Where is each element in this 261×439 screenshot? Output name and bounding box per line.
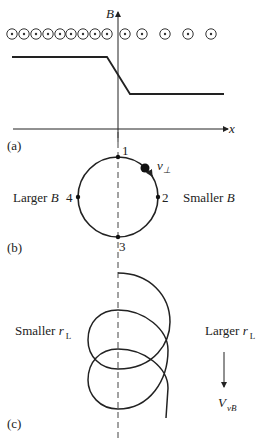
- particle: [141, 164, 150, 173]
- point-4-label: 4: [66, 190, 73, 205]
- field-dot-icon: [164, 33, 166, 35]
- field-dot-icon: [106, 33, 108, 35]
- field-dot-icon: [47, 33, 49, 35]
- drift-velocity-label: VvB: [218, 395, 237, 413]
- panel-b: 1 2 3 4 v⊥ Larger B Smaller B (b): [7, 143, 235, 255]
- x-axis-label: x: [228, 121, 235, 136]
- field-dot-icon: [35, 33, 37, 35]
- point-1: [116, 155, 120, 159]
- field-dot-icon: [124, 33, 126, 35]
- field-dot-icon: [210, 33, 212, 35]
- smaller-rl-label: Smaller rL: [15, 323, 71, 341]
- panel-b-label: (b): [7, 240, 22, 255]
- larger-b-label: Larger B: [13, 190, 59, 205]
- field-dot-icon: [11, 33, 13, 35]
- v-perp-label: v⊥: [157, 158, 171, 175]
- field-dot-icon: [141, 33, 143, 35]
- panel-a-label: (a): [7, 138, 21, 153]
- grad-b-drift-diagram: B x (a) 1 2 3 4 v⊥ Larger B Smaller: [0, 0, 261, 439]
- field-dot-icon: [70, 33, 72, 35]
- smaller-b-label: Smaller B: [183, 190, 235, 205]
- field-dot-icon: [94, 33, 96, 35]
- panel-c-label: (c): [7, 416, 21, 431]
- panel-c: Smaller rL Larger rL VvB (c): [7, 273, 255, 431]
- field-dot-icon: [23, 33, 25, 35]
- panel-a: B x (a): [7, 6, 235, 153]
- field-dot-icon: [82, 33, 84, 35]
- drift-trajectory: [88, 273, 170, 418]
- point-1-label: 1: [122, 143, 129, 158]
- b-axis-label: B: [106, 6, 114, 21]
- point-4: [76, 195, 80, 199]
- field-dot-icon: [187, 33, 189, 35]
- larger-rl-label: Larger rL: [205, 323, 255, 341]
- field-dot-icon: [59, 33, 61, 35]
- point-3-label: 3: [119, 239, 126, 254]
- point-2: [156, 195, 160, 199]
- point-2-label: 2: [162, 190, 169, 205]
- field-symbols: [7, 29, 216, 39]
